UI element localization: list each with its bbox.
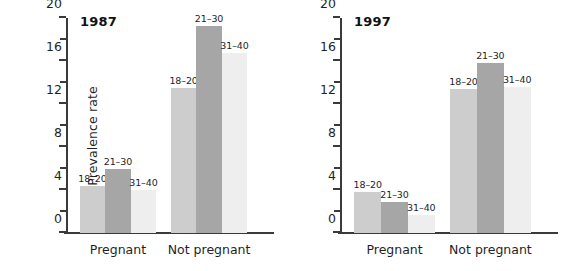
bar-value-label: 31–40: [503, 74, 531, 85]
category-label: Pregnant: [366, 242, 422, 257]
bar-value-label: 18–20: [449, 76, 477, 87]
y-tick-minor: [334, 210, 340, 212]
bar-rect: [105, 169, 130, 234]
y-tick-major: [59, 145, 66, 147]
bar-value-label: 21–30: [476, 50, 504, 61]
category-label: Not pregnant: [168, 242, 251, 257]
bar[interactable]: 31–40: [408, 215, 435, 233]
y-tick-major: [333, 102, 340, 104]
y-tick-major: [59, 59, 66, 61]
bar[interactable]: 31–40: [504, 87, 531, 233]
y-tick-label: 4: [328, 168, 336, 183]
bar-group: 18–2021–3031–40: [354, 18, 434, 233]
bar[interactable]: 21–30: [196, 26, 221, 233]
bar[interactable]: 21–30: [105, 169, 130, 234]
y-tick-major: [59, 102, 66, 104]
bar[interactable]: 18–20: [450, 89, 477, 233]
y-tick-label: 0: [54, 211, 62, 226]
y-tick-minor: [334, 81, 340, 83]
y-tick-label: 0: [328, 211, 336, 226]
y-tick-major: [333, 16, 340, 18]
y-tick-major: [59, 16, 66, 18]
bar-value-label: 21–30: [380, 189, 408, 200]
bar-value-label: 18–20: [169, 75, 197, 86]
category-label: Not pregnant: [449, 242, 532, 257]
bar-rect: [196, 26, 221, 233]
y-tick-major: [333, 59, 340, 61]
chart-panel-1987: Prevalence rate 1987 048121620 Pregnant1…: [0, 0, 283, 271]
y-tick-minor: [334, 38, 340, 40]
bar-value-label: 31–40: [220, 40, 248, 51]
y-tick-label: 8: [54, 125, 62, 140]
bar-rect: [222, 53, 247, 233]
y-tick-minor: [60, 167, 66, 169]
bar-rect: [381, 202, 408, 233]
bar-value-label: 18–20: [78, 173, 106, 184]
bar-value-label: 18–20: [354, 179, 382, 190]
y-tick-label: 8: [328, 125, 336, 140]
y-axis-line: [340, 18, 342, 233]
y-tick-label: 16: [320, 39, 336, 54]
y-tick-minor: [60, 124, 66, 126]
y-tick-major: [59, 231, 66, 233]
y-tick-minor: [334, 167, 340, 169]
bar-value-label: 21–30: [195, 13, 223, 24]
bar-rect: [450, 89, 477, 233]
y-tick-label: 20: [46, 0, 62, 11]
bar-value-label: 31–40: [407, 202, 435, 213]
bar[interactable]: 31–40: [222, 53, 247, 233]
bar[interactable]: 18–20: [171, 88, 196, 233]
y-tick-major: [333, 188, 340, 190]
y-tick-label: 16: [46, 39, 62, 54]
chart-figure: Prevalence rate 1987 048121620 Pregnant1…: [0, 0, 565, 271]
category-label: Pregnant: [90, 242, 146, 257]
bar-value-label: 21–30: [104, 156, 132, 167]
bar[interactable]: 21–30: [381, 202, 408, 233]
plot-area-1997: 1997 048121620 Pregnant18–2021–3031–40No…: [340, 18, 546, 233]
bar-rect: [504, 87, 531, 233]
y-tick-major: [59, 188, 66, 190]
y-tick-label: 12: [320, 82, 336, 97]
y-tick-label: 4: [54, 168, 62, 183]
bar-rect: [354, 192, 381, 233]
bar-group: 18–2021–3031–40: [80, 18, 156, 233]
bar-rect: [131, 190, 156, 233]
bar[interactable]: 18–20: [80, 186, 105, 233]
bar-rect: [477, 63, 504, 233]
y-tick-major: [333, 145, 340, 147]
bar[interactable]: 21–30: [477, 63, 504, 233]
chart-panel-1997: 1997 048121620 Pregnant18–2021–3031–40No…: [283, 0, 565, 271]
plot-area-1987: 1987 048121620 Pregnant18–2021–3031–40No…: [66, 18, 262, 233]
bar-rect: [171, 88, 196, 233]
y-tick-minor: [60, 210, 66, 212]
bar-rect: [408, 215, 435, 233]
bar-value-label: 31–40: [129, 177, 157, 188]
bar-group: 18–2021–3031–40: [171, 18, 247, 233]
y-tick-label: 20: [320, 0, 336, 11]
y-tick-minor: [334, 124, 340, 126]
y-tick-minor: [60, 38, 66, 40]
y-axis-line: [66, 18, 68, 233]
y-tick-label: 12: [46, 82, 62, 97]
bar-rect: [80, 186, 105, 233]
y-tick-minor: [60, 81, 66, 83]
bar[interactable]: 18–20: [354, 192, 381, 233]
y-tick-major: [333, 231, 340, 233]
bar-group: 18–2021–3031–40: [450, 18, 530, 233]
bar[interactable]: 31–40: [131, 190, 156, 233]
